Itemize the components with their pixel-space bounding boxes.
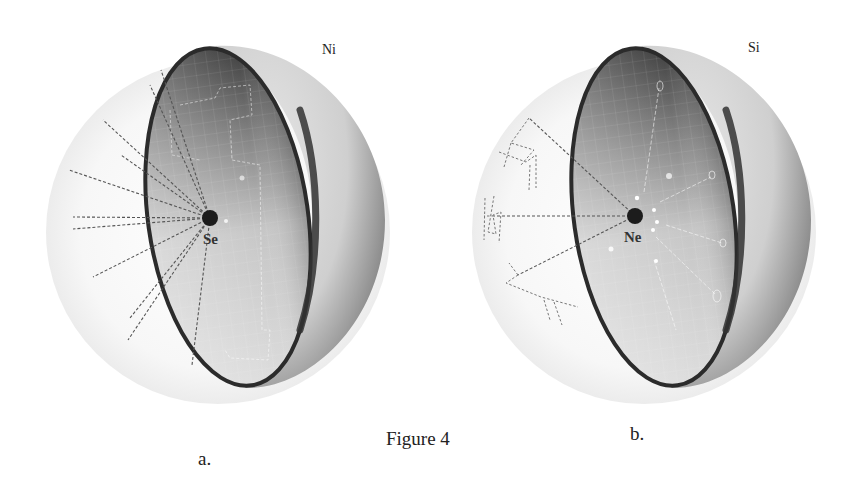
corner-label-a: Ni (322, 42, 336, 58)
panel-label-b: b. (630, 423, 644, 445)
center-label-a: Se (203, 231, 218, 248)
figure-caption: Figure 4 (386, 428, 450, 450)
figure-panel-b: Si Ne b. (426, 0, 852, 483)
center-point-b (627, 208, 643, 224)
figure-panel-a: Ni Se a. (0, 0, 426, 483)
center-label-b: Ne (624, 229, 642, 246)
panel-label-a: a. (198, 448, 211, 470)
center-point-a (202, 210, 218, 226)
corner-label-b: Si (748, 40, 760, 56)
